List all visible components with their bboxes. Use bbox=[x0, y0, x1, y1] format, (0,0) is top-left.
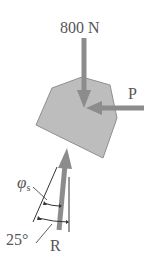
block-body bbox=[36, 77, 117, 158]
force-diagram: 800 N P R φs 25° bbox=[0, 0, 151, 273]
phi-label: φs bbox=[17, 173, 30, 193]
incline-angle-label: 25° bbox=[6, 231, 28, 248]
push-label: P bbox=[128, 85, 137, 102]
incline-angle-arc bbox=[38, 218, 68, 222]
slope-reference-line bbox=[33, 167, 57, 222]
reaction-arrow bbox=[58, 148, 72, 230]
weight-label: 800 N bbox=[60, 19, 100, 36]
reaction-label: R bbox=[50, 237, 61, 254]
